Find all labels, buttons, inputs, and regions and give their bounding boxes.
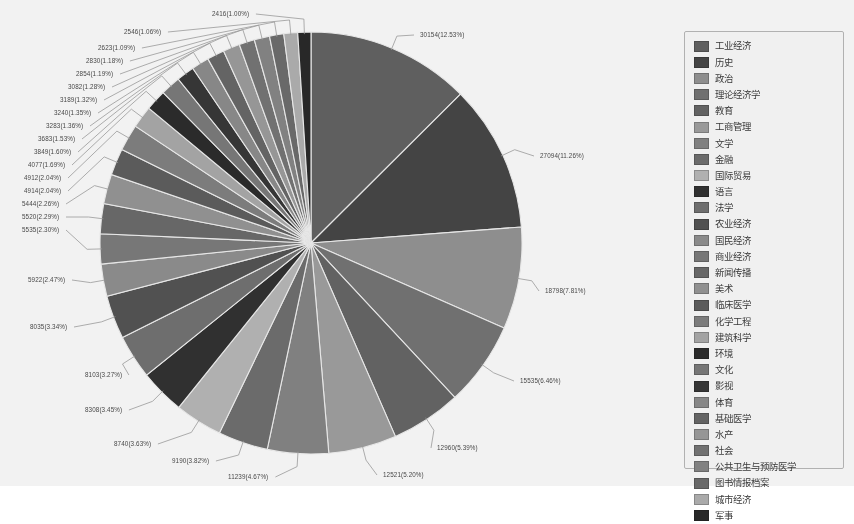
- legend-item[interactable]: 建筑科学: [694, 329, 838, 345]
- legend-item[interactable]: 化学工程: [694, 313, 838, 329]
- legend-item[interactable]: 工业经济: [694, 38, 838, 54]
- legend-color-swatch-icon: [694, 57, 709, 68]
- legend-item[interactable]: 农业经济: [694, 216, 838, 232]
- pie-slice-label: 3082(1.28%): [68, 83, 105, 91]
- legend-item[interactable]: 水产: [694, 427, 838, 443]
- pie-slice-label: 2416(1.00%): [212, 10, 249, 18]
- legend-item[interactable]: 国民经济: [694, 232, 838, 248]
- pie-slices-group: [100, 32, 522, 454]
- legend-color-swatch-icon: [694, 381, 709, 392]
- pie-leader-line: [481, 364, 514, 381]
- legend-item[interactable]: 教育: [694, 103, 838, 119]
- legend-item[interactable]: 影视: [694, 378, 838, 394]
- legend-color-swatch-icon: [694, 429, 709, 440]
- pie-slice-label: 9190(3.82%): [172, 457, 209, 465]
- legend-item-label: 美术: [715, 284, 733, 293]
- pie-slice-label: 4077(1.69%): [28, 161, 65, 169]
- pie-slice-label: 8740(3.63%): [114, 440, 151, 448]
- legend-color-swatch-icon: [694, 413, 709, 424]
- pie-slice-label: 5922(2.47%): [28, 276, 65, 284]
- legend-item[interactable]: 理论经济学: [694, 87, 838, 103]
- legend-item[interactable]: 体育: [694, 394, 838, 410]
- legend-color-swatch-icon: [694, 461, 709, 472]
- pie-slice-label: 8103(3.27%): [85, 371, 122, 379]
- legend-item-label: 法学: [715, 203, 733, 212]
- pie-slice-label: 18798(7.81%): [545, 287, 586, 295]
- legend-item[interactable]: 环境: [694, 346, 838, 362]
- legend-color-swatch-icon: [694, 300, 709, 311]
- legend-color-swatch-icon: [694, 283, 709, 294]
- legend-item-label: 国际贸易: [715, 171, 751, 180]
- legend-color-swatch-icon: [694, 348, 709, 359]
- legend-item-label: 历史: [715, 58, 733, 67]
- legend-color-swatch-icon: [694, 89, 709, 100]
- legend-item[interactable]: 美术: [694, 281, 838, 297]
- legend-item-label: 教育: [715, 106, 733, 115]
- legend-item[interactable]: 军事: [694, 507, 838, 523]
- pie-leader-line: [501, 150, 534, 156]
- legend-item[interactable]: 图书情报档案: [694, 475, 838, 491]
- legend-color-swatch-icon: [694, 186, 709, 197]
- legend-item-label: 金融: [715, 155, 733, 164]
- legend-item-label: 社会: [715, 446, 733, 455]
- legend-item[interactable]: 文学: [694, 135, 838, 151]
- legend-item[interactable]: 历史: [694, 54, 838, 70]
- legend-color-swatch-icon: [694, 494, 709, 505]
- legend-item-label: 公共卫生与预防医学: [715, 462, 796, 471]
- legend-color-swatch-icon: [694, 364, 709, 375]
- legend-item-label: 工商管理: [715, 122, 751, 131]
- legend-item[interactable]: 城市经济: [694, 491, 838, 507]
- pie-slice-label: 3683(1.53%): [38, 135, 75, 143]
- legend-item[interactable]: 金融: [694, 151, 838, 167]
- pie-slice-label: 4914(2.04%): [24, 187, 61, 195]
- legend-item-label: 新闻传播: [715, 268, 751, 277]
- legend-item-label: 建筑科学: [715, 333, 751, 342]
- legend-item-label: 文化: [715, 365, 733, 374]
- legend-color-swatch-icon: [694, 138, 709, 149]
- pie-leader-line: [66, 186, 109, 204]
- legend-item-label: 影视: [715, 381, 733, 390]
- pie-leader-line: [362, 446, 377, 475]
- pie-slice-label: 2854(1.19%): [76, 70, 113, 78]
- legend-item-label: 政治: [715, 74, 733, 83]
- legend-color-swatch-icon: [694, 316, 709, 327]
- pie-slice-label: 2830(1.18%): [86, 57, 123, 65]
- legend-item[interactable]: 商业经济: [694, 248, 838, 264]
- legend-item[interactable]: 语言: [694, 184, 838, 200]
- legend-item-label: 化学工程: [715, 317, 751, 326]
- legend-item-label: 工业经济: [715, 41, 751, 50]
- legend-color-swatch-icon: [694, 219, 709, 230]
- legend-item[interactable]: 基础医学: [694, 410, 838, 426]
- legend-item[interactable]: 公共卫生与预防医学: [694, 459, 838, 475]
- legend-item-label: 环境: [715, 349, 733, 358]
- pie-slice-label: 4912(2.04%): [24, 174, 61, 182]
- legend-color-swatch-icon: [694, 170, 709, 181]
- legend-color-swatch-icon: [694, 510, 709, 521]
- pie-slice-label: 8308(3.45%): [85, 406, 122, 414]
- legend-color-swatch-icon: [694, 73, 709, 84]
- pie-slice-label: 12521(5.20%): [383, 471, 424, 479]
- legend-item-label: 文学: [715, 139, 733, 148]
- legend-color-swatch-icon: [694, 478, 709, 489]
- legend-item[interactable]: 法学: [694, 200, 838, 216]
- legend-item[interactable]: 新闻传播: [694, 265, 838, 281]
- pie-slice-label: 27094(11.26%): [540, 152, 584, 160]
- legend-item[interactable]: 临床医学: [694, 297, 838, 313]
- legend-item-label: 商业经济: [715, 252, 751, 261]
- legend-item[interactable]: 文化: [694, 362, 838, 378]
- legend-item-label: 理论经济学: [715, 90, 760, 99]
- legend-item-list: 工业经济历史政治理论经济学教育工商管理文学金融国际贸易语言法学农业经济国民经济商…: [694, 38, 838, 524]
- legend-item[interactable]: 社会: [694, 443, 838, 459]
- pie-leader-line: [426, 418, 434, 448]
- legend-item[interactable]: 工商管理: [694, 119, 838, 135]
- legend-item[interactable]: 国际贸易: [694, 168, 838, 184]
- legend-item-label: 体育: [715, 398, 733, 407]
- legend-item-label: 农业经济: [715, 219, 751, 228]
- pie-slice-label: 5520(2.29%): [22, 213, 59, 221]
- legend-item[interactable]: 政治: [694, 70, 838, 86]
- legend-item-label: 语言: [715, 187, 733, 196]
- pie-leader-line: [123, 356, 136, 375]
- pie-leader-line: [129, 391, 163, 410]
- legend-item-label: 城市经济: [715, 495, 751, 504]
